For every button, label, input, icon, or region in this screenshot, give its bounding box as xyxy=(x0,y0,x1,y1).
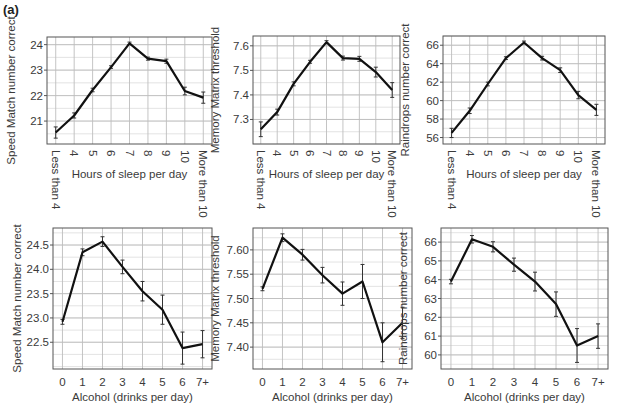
y-tick-label: 7.60 xyxy=(227,244,249,256)
x-tick-label: 8 xyxy=(337,150,349,156)
x-tick-label: More than 10 xyxy=(386,150,398,218)
chart-alcohol-raindrops: 60616263646566Raindrops number correct01… xyxy=(397,228,608,403)
y-tick-label: 22 xyxy=(30,90,43,102)
x-axis-label: Hours of sleep per day xyxy=(466,168,582,180)
y-tick-label: 64 xyxy=(424,274,437,286)
x-tick-label: 5 xyxy=(288,150,300,156)
x-tick-label: 7 xyxy=(321,150,333,156)
x-tick-label: 6 xyxy=(179,376,185,388)
x-axis-label: Alcohol (drinks per day) xyxy=(272,391,393,403)
data-line xyxy=(451,239,598,345)
x-tick-label: 1 xyxy=(279,376,285,388)
y-tick-label: 24 xyxy=(30,39,43,51)
x-tick-label: 7+ xyxy=(591,376,604,388)
x-tick-label: 9 xyxy=(160,150,172,156)
data-line xyxy=(263,238,403,343)
y-tick-label: 24.0 xyxy=(27,263,49,275)
x-tick-label: More than 10 xyxy=(590,150,602,218)
x-tick-label: 0 xyxy=(59,376,65,388)
x-tick-label: 4 xyxy=(271,150,283,157)
y-tick-label: 7.45 xyxy=(227,317,249,329)
x-axis-label: Alcohol (drinks per day) xyxy=(464,391,585,403)
x-tick-label: 3 xyxy=(319,376,325,388)
y-tick-label: 23 xyxy=(30,64,43,76)
x-tick-label: 2 xyxy=(99,376,105,388)
y-tick-label: 7.40 xyxy=(227,341,249,353)
x-tick-label: 7 xyxy=(518,150,530,156)
x-tick-label: 0 xyxy=(259,376,265,388)
y-tick-label: 62 xyxy=(426,76,439,88)
chart-alcohol-speed-match: 22.523.023.524.024.5Speed Match number c… xyxy=(11,224,212,403)
x-tick-label: 6 xyxy=(379,376,385,388)
chart-sleep-raindrops: 565860626466Raindrops number correctLess… xyxy=(399,23,605,218)
x-tick-label: 3 xyxy=(511,376,517,388)
y-axis-label: Speed Match number correct xyxy=(5,16,17,165)
y-tick-label: 7.6 xyxy=(233,40,249,52)
x-tick-label: 5 xyxy=(87,150,99,156)
y-axis-label: Speed Match number correct xyxy=(11,224,23,373)
x-tick-label: 5 xyxy=(553,376,559,388)
x-tick-label: 6 xyxy=(304,150,316,156)
x-tick-label: 10 xyxy=(370,150,382,163)
y-axis-label: Memory Matrix threshold xyxy=(209,235,221,362)
x-tick-label: 6 xyxy=(500,150,512,156)
x-tick-label: 7+ xyxy=(196,376,209,388)
x-axis-label: Hours of sleep per day xyxy=(72,168,188,180)
x-tick-label: 8 xyxy=(536,150,548,156)
y-tick-label: 7.50 xyxy=(227,293,249,305)
x-axis-label: Alcohol (drinks per day) xyxy=(72,391,193,403)
chart-sleep-speed-match: 21222324Speed Match number correctLess t… xyxy=(5,16,212,218)
x-tick-label: 2 xyxy=(490,376,496,388)
x-tick-label: 1 xyxy=(79,376,85,388)
x-tick-label: 4 xyxy=(339,376,346,388)
x-tick-label: 1 xyxy=(469,376,475,388)
y-tick-label: 60 xyxy=(424,349,437,361)
x-tick-label: 10 xyxy=(179,150,191,163)
y-tick-label: 56 xyxy=(426,132,439,144)
chart-alcohol-memory-matrix: 7.407.457.507.557.60Memory Matrix thresh… xyxy=(209,228,412,403)
x-tick-label: 5 xyxy=(482,150,494,156)
x-tick-label: 7 xyxy=(124,150,136,156)
y-tick-label: 7.3 xyxy=(233,113,249,125)
x-tick-label: 2 xyxy=(299,376,305,388)
y-axis-label: Raindrops number correct xyxy=(397,231,409,365)
x-tick-label: 4 xyxy=(139,376,146,388)
y-tick-label: 24.5 xyxy=(27,239,49,251)
figure-canvas: 21222324Speed Match number correctLess t… xyxy=(0,0,620,411)
x-tick-label: Less than 4 xyxy=(446,150,458,210)
y-tick-label: 65 xyxy=(424,255,437,267)
y-tick-label: 60 xyxy=(426,95,439,107)
x-tick-label: 4 xyxy=(532,376,539,388)
y-axis-label: Raindrops number correct xyxy=(399,23,411,157)
x-tick-label: 4 xyxy=(68,150,80,157)
x-tick-label: 5 xyxy=(159,376,165,388)
x-axis-label: Hours of sleep per day xyxy=(269,168,385,180)
y-tick-label: 64 xyxy=(426,58,439,70)
x-tick-label: 6 xyxy=(105,150,117,156)
chart-sleep-memory-matrix: 7.37.47.57.6Memory Matrix thresholdLess … xyxy=(209,27,400,218)
x-tick-label: 6 xyxy=(574,376,580,388)
y-tick-label: 66 xyxy=(426,39,439,51)
y-tick-label: 7.5 xyxy=(233,64,249,76)
x-tick-label: Less than 4 xyxy=(255,150,267,210)
x-tick-label: 5 xyxy=(359,376,365,388)
y-tick-label: 58 xyxy=(426,113,439,125)
y-tick-label: 66 xyxy=(424,236,437,248)
x-tick-label: 8 xyxy=(142,150,154,156)
x-tick-label: 7+ xyxy=(396,376,409,388)
x-tick-label: 0 xyxy=(448,376,454,388)
y-tick-label: 23.5 xyxy=(27,288,49,300)
y-tick-label: 62 xyxy=(424,311,437,323)
x-tick-label: 10 xyxy=(572,150,584,163)
x-tick-label: 9 xyxy=(353,150,365,156)
x-tick-label: 3 xyxy=(119,376,125,388)
x-tick-label: 4 xyxy=(464,150,476,157)
x-tick-label: More than 10 xyxy=(197,150,209,218)
y-axis-label: Memory Matrix threshold xyxy=(209,27,221,154)
y-tick-label: 22.5 xyxy=(27,336,49,348)
x-tick-label: 9 xyxy=(554,150,566,156)
y-tick-label: 63 xyxy=(424,293,437,305)
y-tick-label: 21 xyxy=(30,115,43,127)
y-tick-label: 61 xyxy=(424,330,437,342)
y-tick-label: 23.0 xyxy=(27,312,49,324)
